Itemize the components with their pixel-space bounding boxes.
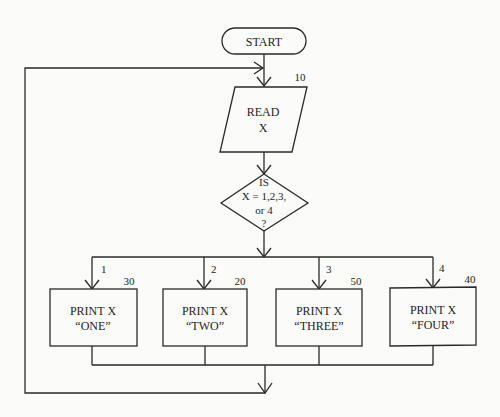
branch-4-output: “FOUR”: [412, 318, 455, 332]
start-label: START: [246, 35, 283, 49]
decision-line-2: X = 1,2,3,: [242, 190, 287, 202]
branch-3-action: PRINT X: [296, 304, 342, 318]
branch-2-step: 20: [235, 275, 247, 287]
start-terminal: START: [222, 28, 306, 54]
step-number-read: 10: [295, 71, 307, 83]
branch-3-step: 50: [351, 275, 363, 287]
branch-2-output: “TWO”: [186, 319, 224, 333]
flowchart: START READ X 10 IS X = 1,2,3, or 4 ? 1 3…: [0, 0, 500, 417]
branch-1-step: 30: [124, 275, 136, 287]
branch-4: 4 40 PRINT X “FOUR”: [390, 257, 476, 346]
decision-line-3: or 4: [255, 204, 273, 216]
branch-1-output: “ONE”: [75, 319, 110, 333]
branch-1-action: PRINT X: [70, 304, 116, 318]
branch-2-action: PRINT X: [182, 304, 228, 318]
branch-2-case: 2: [211, 263, 217, 275]
decision-diamond: IS X = 1,2,3, or 4 ?: [221, 174, 308, 231]
merge-lines: [92, 345, 433, 365]
branch-3-output: “THREE”: [294, 319, 343, 333]
branch-1: 1 30 PRINT X “ONE”: [50, 257, 137, 346]
branch-4-action: PRINT X: [410, 303, 456, 317]
branch-4-step: 40: [465, 273, 477, 285]
read-label: READ: [247, 105, 280, 119]
branch-3-case: 3: [326, 263, 332, 275]
read-variable: X: [259, 121, 268, 135]
branch-3: 3 50 PRINT X “THREE”: [276, 257, 362, 346]
decision-line-1: IS: [259, 176, 269, 188]
decision-line-4: ?: [262, 217, 267, 229]
branch-2: 2 20 PRINT X “TWO”: [163, 257, 247, 346]
branch-4-case: 4: [439, 262, 445, 274]
branch-1-case: 1: [101, 263, 107, 275]
